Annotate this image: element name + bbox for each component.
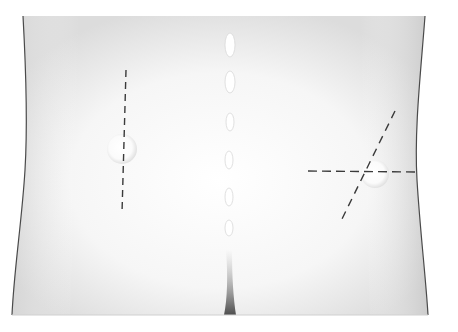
- left-flank-shade: [12, 16, 80, 315]
- back-illustration: [0, 0, 458, 332]
- left-dimple: [107, 134, 137, 164]
- right-dimple: [361, 160, 389, 188]
